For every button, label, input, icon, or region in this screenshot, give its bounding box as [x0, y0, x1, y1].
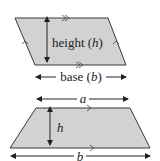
shapes-diagram: height (h) base (b) a h b: [0, 0, 160, 161]
top-label: a: [80, 91, 87, 106]
trapezoid-height-label: h: [57, 120, 64, 135]
parallelogram: height (h) base (b): [15, 15, 126, 84]
base-label: base (b): [60, 69, 102, 84]
height-label: height (h): [52, 35, 103, 50]
bottom-label: b: [77, 149, 84, 161]
trapezoid: a h b: [10, 91, 150, 161]
trapezoid-shape: [10, 108, 150, 148]
